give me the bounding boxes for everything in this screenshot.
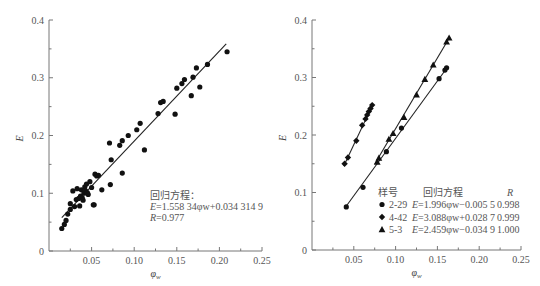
data-point-circle bbox=[126, 133, 131, 138]
x-tick-label: 0.20 bbox=[211, 255, 229, 266]
data-point-circle bbox=[68, 201, 73, 206]
data-point-circle bbox=[99, 187, 104, 192]
data-point-triangle bbox=[446, 34, 453, 40]
data-point-circle bbox=[96, 173, 101, 178]
data-point-circle bbox=[120, 170, 125, 175]
data-point-circle bbox=[86, 192, 91, 197]
data-point-circle bbox=[161, 99, 166, 104]
data-point-diamond bbox=[341, 161, 347, 167]
y-tick-label: 0.3 bbox=[32, 72, 45, 83]
x-axis-label: φw bbox=[150, 268, 161, 281]
y-axis-label: E bbox=[14, 135, 25, 142]
data-point-diamond bbox=[345, 154, 351, 160]
legend-header-sample: 样号 bbox=[378, 186, 398, 198]
data-point-circle bbox=[120, 138, 125, 143]
y-tick-label: 0.1 bbox=[295, 187, 308, 198]
data-point-triangle bbox=[390, 130, 397, 136]
data-point-circle bbox=[80, 198, 85, 203]
data-point-triangle bbox=[413, 91, 420, 97]
y-tick-label: 0.1 bbox=[32, 188, 45, 199]
data-point-circle bbox=[89, 185, 94, 190]
data-point-circle bbox=[155, 111, 160, 116]
legend-equation: E=3.088φw+0.028 7 bbox=[411, 212, 495, 223]
data-point-circle bbox=[117, 143, 122, 148]
legend-r-value: 1.000 bbox=[497, 224, 520, 235]
data-point-circle bbox=[63, 218, 68, 223]
data-point-circle bbox=[344, 204, 349, 209]
data-point-circle bbox=[142, 147, 147, 152]
data-point-circle bbox=[224, 49, 229, 54]
right-scatter-plot: 00.10.20.30.40.050.100.150.200.25φwE样号回归… bbox=[277, 15, 530, 281]
data-point-circle bbox=[189, 93, 194, 98]
y-tick-label: 0.4 bbox=[295, 15, 308, 26]
data-point-circle bbox=[109, 157, 114, 162]
data-point-circle bbox=[194, 65, 199, 70]
data-point-circle bbox=[205, 62, 210, 67]
left-scatter-plot: 00.10.20.30.40.050.100.150.200.25φwE回归方程… bbox=[14, 15, 271, 282]
legend-r-value: 0.999 bbox=[497, 212, 520, 223]
regression-r-value: R=0.977 bbox=[149, 212, 184, 223]
legend-marker-diamond bbox=[379, 214, 385, 220]
legend-header-equation: 回归方程 bbox=[423, 186, 463, 198]
x-axis-label: φw bbox=[411, 267, 422, 280]
legend-header-r: R bbox=[506, 187, 513, 198]
legend-equation: E=1.996φw−0.005 5 bbox=[411, 199, 495, 210]
data-point-circle bbox=[77, 203, 82, 208]
x-tick-label: 0.10 bbox=[125, 255, 143, 266]
legend-sample-id: 4-42 bbox=[389, 212, 407, 223]
data-point-circle bbox=[399, 126, 404, 131]
y-tick-label: 0.4 bbox=[32, 15, 45, 26]
legend-equation: E=2.459φw−0.034 9 bbox=[411, 224, 495, 235]
data-point-circle bbox=[174, 86, 179, 91]
x-tick-label: 0.05 bbox=[83, 255, 101, 266]
data-point-circle bbox=[107, 140, 112, 145]
legend-marker-triangle bbox=[379, 226, 386, 232]
legend: 样号回归方程R2-29E=1.996φw−0.005 50.9984-42E=3… bbox=[378, 186, 520, 235]
data-point-circle bbox=[360, 185, 365, 190]
data-point-circle bbox=[65, 211, 70, 216]
y-tick-label: 0.2 bbox=[32, 130, 45, 141]
data-point-circle bbox=[138, 121, 143, 126]
y-axis-label: E bbox=[277, 135, 288, 142]
data-point-circle bbox=[92, 202, 97, 207]
regression-equation: E=1.558 34φw+0.034 314 9 bbox=[149, 201, 263, 212]
regression-title: 回归方程： bbox=[150, 189, 200, 201]
data-point-circle bbox=[87, 179, 92, 184]
y-tick-label: 0 bbox=[302, 245, 307, 256]
x-tick-label: 0.15 bbox=[429, 254, 447, 265]
data-point-circle bbox=[197, 84, 202, 89]
data-point-circle bbox=[182, 77, 187, 82]
legend-sample-id: 2-29 bbox=[389, 199, 407, 210]
data-point-circle bbox=[444, 65, 449, 70]
y-tick-label: 0 bbox=[39, 246, 44, 257]
x-tick-label: 0.20 bbox=[470, 254, 488, 265]
data-point-circle bbox=[436, 76, 441, 81]
data-point-circle bbox=[72, 204, 77, 209]
x-tick-label: 0.05 bbox=[345, 254, 363, 265]
regression-line bbox=[375, 37, 450, 164]
figure: 00.10.20.30.40.050.100.150.200.25φwE回归方程… bbox=[0, 0, 540, 286]
x-tick-label: 0.25 bbox=[512, 254, 530, 265]
y-tick-label: 0.3 bbox=[295, 72, 308, 83]
legend-marker-circle bbox=[379, 202, 384, 207]
data-point-triangle bbox=[421, 76, 428, 82]
data-point-triangle bbox=[430, 61, 437, 67]
data-point-circle bbox=[134, 127, 139, 132]
y-tick-label: 0.2 bbox=[295, 130, 308, 141]
x-tick-label: 0.25 bbox=[253, 255, 271, 266]
data-point-circle bbox=[190, 75, 195, 80]
data-point-circle bbox=[108, 182, 113, 187]
data-point-circle bbox=[68, 207, 73, 212]
data-point-triangle bbox=[401, 114, 408, 120]
x-tick-label: 0.10 bbox=[387, 254, 405, 265]
legend-r-value: 0.998 bbox=[497, 199, 520, 210]
data-point-circle bbox=[172, 112, 177, 117]
legend-sample-id: 5-3 bbox=[389, 224, 402, 235]
x-tick-label: 0.15 bbox=[168, 255, 186, 266]
data-point-circle bbox=[384, 149, 389, 154]
